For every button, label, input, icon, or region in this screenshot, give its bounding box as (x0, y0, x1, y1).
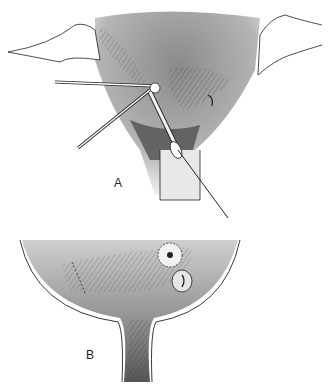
surgical-illustration (0, 0, 330, 390)
orifice (172, 270, 192, 292)
panel-b (20, 240, 240, 382)
panel-a (8, 12, 322, 219)
panel-label-b: B (86, 348, 94, 362)
panel-label-a: A (114, 176, 122, 190)
figure-canvas: A B (0, 0, 330, 390)
